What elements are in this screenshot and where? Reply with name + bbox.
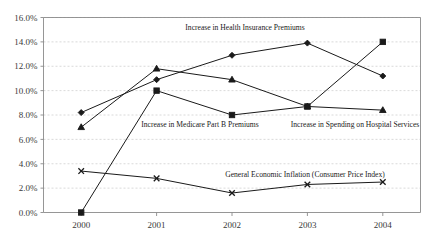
data-point-diamond xyxy=(304,40,310,46)
x-tick-label: 2002 xyxy=(223,220,241,230)
data-point-square xyxy=(229,112,234,117)
series-annotation-label: Increase in Medicare Part B Premiums xyxy=(141,120,258,129)
data-point-diamond xyxy=(154,77,160,83)
chart-canvas: 0.0%2.0%4.0%6.0%8.0%10.0%12.0%14.0%16.0%… xyxy=(0,0,429,240)
y-tick-label: 6.0% xyxy=(19,135,38,145)
x-tick-label: 2003 xyxy=(298,220,317,230)
y-axis-tick-labels: 0.0%2.0%4.0%6.0%8.0%10.0%12.0%14.0%16.0% xyxy=(14,13,38,218)
data-point-square xyxy=(154,88,159,93)
data-point-diamond xyxy=(229,52,235,58)
y-tick-label: 8.0% xyxy=(19,110,38,120)
y-tick-label: 10.0% xyxy=(14,86,38,96)
y-tick-label: 14.0% xyxy=(14,37,38,47)
gridlines-group xyxy=(44,18,421,189)
data-point-diamond xyxy=(78,110,84,116)
series-annotation-label: General Economic Inflation (Consumer Pri… xyxy=(225,170,385,179)
y-tick-label: 4.0% xyxy=(19,159,38,169)
x-tick-label: 2000 xyxy=(72,220,91,230)
data-point-diamond xyxy=(380,73,386,79)
data-point-triangle xyxy=(78,124,85,130)
x-axis-tick-labels: 20002001200220032004 xyxy=(72,213,392,230)
series-annotation-label: Increase in Health Insurance Premiums xyxy=(185,23,304,32)
series-annotation-label: Increase in Spending on Hospital Service… xyxy=(291,120,419,129)
x-tick-label: 2001 xyxy=(148,220,166,230)
data-point-triangle xyxy=(153,65,160,71)
y-tick-label: 0.0% xyxy=(19,208,38,218)
y-tick-label: 16.0% xyxy=(14,13,38,23)
data-point-square xyxy=(380,39,385,44)
data-point-square xyxy=(79,210,84,215)
y-tick-label: 12.0% xyxy=(14,61,38,71)
line-chart: 0.0%2.0%4.0%6.0%8.0%10.0%12.0%14.0%16.0%… xyxy=(0,0,429,240)
y-tick-label: 2.0% xyxy=(19,183,38,193)
x-tick-label: 2004 xyxy=(374,220,393,230)
